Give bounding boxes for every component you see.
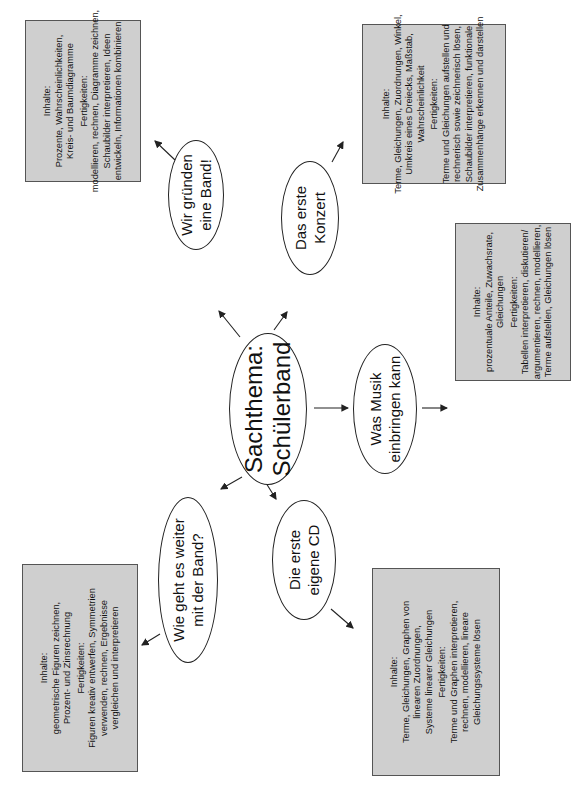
inhalte-label: Inhalte: xyxy=(39,588,51,748)
info-box-konzert: Inhalte: Terme, Gleichungen, Zuordnungen… xyxy=(362,24,506,184)
fertigkeiten-label: Fertigkeiten: xyxy=(75,588,87,748)
topic-node-musik: Was Musik einbringen kann xyxy=(353,344,417,474)
info-box-konzert-text: Inhalte: Terme, Gleichungen, Zuordnungen… xyxy=(381,14,487,193)
topic-node-musik-label: Was Musik einbringen kann xyxy=(366,356,404,463)
info-box-musik: Inhalte: prozentuale Anteile, Zuwachsrat… xyxy=(455,223,571,381)
topic-node-band-label: Wir gründen eine Band! xyxy=(177,154,215,236)
fertigkeiten-label: Fertigkeiten: xyxy=(437,601,449,744)
info-box-band-text: Inhalte: Prozente, Wahrscheinlichkeiten,… xyxy=(42,10,125,192)
inhalte-label: Inhalte: xyxy=(472,225,484,380)
topic-node-cd-label: Die erste eigene CD xyxy=(285,525,323,596)
arrow-konzert-to-box xyxy=(332,142,343,162)
arrow-center-to-konzert xyxy=(274,312,287,330)
topic-node-konzert: Das erste Konzert xyxy=(281,161,339,275)
arrow-cd-to-box xyxy=(331,609,353,628)
inhalte-label: Inhalte: xyxy=(381,14,393,193)
fertigkeiten-label: Fertigkeiten: xyxy=(508,225,520,380)
inhalte-label: Inhalte: xyxy=(42,10,54,192)
fertigkeiten-label: Fertigkeiten: xyxy=(78,10,90,192)
inhalte-label: Inhalte: xyxy=(389,601,401,744)
center-node: Sachthema: Schülerband xyxy=(229,333,307,485)
topic-node-band: Wir gründen eine Band! xyxy=(168,140,224,250)
arrow-center-to-band xyxy=(219,311,240,337)
info-box-cd: Inhalte: Terme, Gleichungen, Graphen von… xyxy=(372,568,500,776)
info-box-weiter: Inhalte: geometrische Figuren zeichnen, … xyxy=(22,564,138,772)
arrow-band-to-box xyxy=(155,141,175,160)
topic-node-weiter: Wie geht es weiter mit der Band? xyxy=(158,497,218,663)
arrow-center-to-cd xyxy=(266,483,276,499)
topic-node-weiter-label: Wie geht es weiter mit der Band? xyxy=(169,518,207,641)
fertigkeiten-label: Fertigkeiten: xyxy=(429,14,441,193)
info-box-musik-text: Inhalte: prozentuale Anteile, Zuwachsrat… xyxy=(472,225,555,380)
info-box-band: Inhalte: Prozente, Wahrscheinlichkeiten,… xyxy=(25,20,141,182)
info-box-weiter-text: Inhalte: geometrische Figuren zeichnen, … xyxy=(39,588,122,748)
info-box-cd-text: Inhalte: Terme, Gleichungen, Graphen von… xyxy=(389,601,483,744)
arrow-weiter-to-box xyxy=(142,634,160,645)
arrow-center-to-weiter xyxy=(221,477,242,489)
topic-node-cd: Die erste eigene CD xyxy=(272,500,336,620)
topic-node-konzert-label: Das erste Konzert xyxy=(291,186,329,250)
mind-map: Inhalte: Prozente, Wahrscheinlichkeiten,… xyxy=(0,0,586,812)
center-node-label: Sachthema: Schülerband xyxy=(240,342,296,477)
